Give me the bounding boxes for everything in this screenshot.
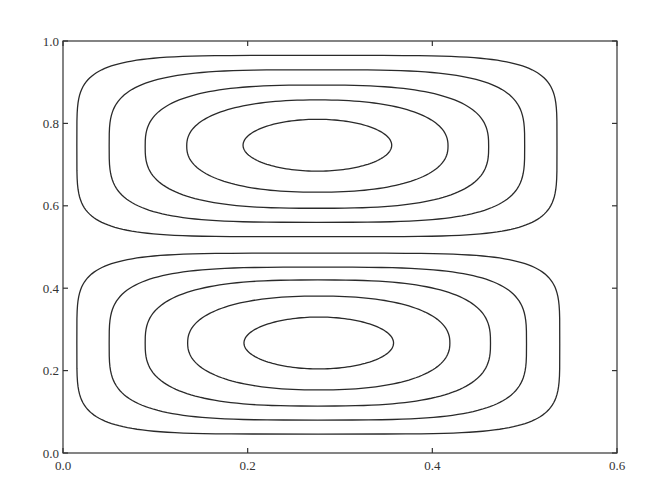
x-tick-label: 0.4 <box>424 458 441 473</box>
contour-chart: 0.00.20.40.6 0.00.20.40.60.81.0 <box>0 0 656 499</box>
contour-line-level-4 <box>187 100 448 192</box>
y-axis-tick-labels: 0.00.20.40.60.81.0 <box>43 34 60 461</box>
lower-cell <box>77 253 560 434</box>
contour-line-level-3 <box>145 280 490 406</box>
y-tick-label: 1.0 <box>43 34 59 49</box>
contour-line-level-5 <box>244 317 394 369</box>
plot-frame <box>63 41 617 453</box>
y-tick-label: 0.2 <box>43 363 59 378</box>
contour-line-level-2 <box>109 70 525 222</box>
x-axis-tick-labels: 0.00.20.40.6 <box>55 458 626 473</box>
y-tick-label: 0.6 <box>43 198 60 213</box>
contour-line-level-5 <box>243 119 392 171</box>
upper-cell <box>77 55 557 236</box>
x-tick-label: 0.6 <box>609 458 626 473</box>
y-tick-label: 0.8 <box>43 116 59 131</box>
contour-line-level-2 <box>109 267 526 420</box>
x-tick-label: 0.2 <box>240 458 256 473</box>
contour-lines <box>77 55 560 434</box>
contour-line-level-4 <box>188 296 450 390</box>
y-tick-label: 0.4 <box>43 281 60 296</box>
y-tick-label: 0.0 <box>43 446 59 461</box>
contour-line-level-3 <box>145 85 488 208</box>
axis-ticks <box>63 41 617 453</box>
